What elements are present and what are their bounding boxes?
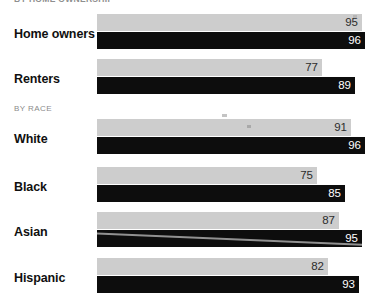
bar-value-light-black: 75 (300, 170, 313, 182)
bar-value-light-hispanic: 82 (311, 261, 324, 273)
chart-row-hispanic: Hispanic 82 93 (0, 258, 385, 303)
bar-value-dark-black: 85 (328, 188, 341, 200)
bar-dark-black: 85 (97, 185, 345, 202)
section-caption-race: BY RACE (14, 104, 52, 113)
bar-value-light-renters: 77 (305, 62, 318, 74)
bar-value-dark-renters: 89 (338, 80, 351, 92)
bar-chart: BY HOME OWNERSHIP Home owners 95 96 Rent… (0, 0, 385, 308)
bar-light-white: 91 (97, 119, 351, 136)
row-label-white: White (14, 132, 48, 146)
bar-light-home-owners: 95 (97, 14, 362, 31)
bar-value-dark-asian: 95 (345, 233, 358, 245)
bar-dark-asian: 95 (97, 230, 362, 247)
bar-dark-home-owners: 96 (97, 32, 365, 49)
section-caption-home-ownership: BY HOME OWNERSHIP (14, 0, 113, 4)
bar-light-renters: 77 (97, 59, 322, 76)
scan-speck (247, 125, 251, 128)
chart-row-renters: Renters 77 89 (0, 59, 385, 104)
bar-value-dark-hispanic: 93 (342, 279, 355, 291)
scan-crease (97, 232, 362, 246)
bar-light-asian: 87 (97, 212, 339, 229)
chart-row-asian: Asian 87 95 (0, 212, 385, 257)
chart-row-home-owners: Home owners 95 96 (0, 14, 385, 59)
bar-dark-white: 96 (97, 137, 365, 154)
chart-row-black: Black 75 85 (0, 167, 385, 212)
bar-value-light-home-owners: 95 (345, 17, 358, 29)
row-label-home-owners: Home owners (14, 27, 95, 41)
bar-value-light-asian: 87 (322, 215, 335, 227)
bar-value-dark-home-owners: 96 (348, 35, 361, 47)
row-label-hispanic: Hispanic (14, 271, 65, 285)
row-label-asian: Asian (14, 225, 48, 239)
bar-dark-hispanic: 93 (97, 276, 359, 293)
bar-dark-renters: 89 (97, 77, 355, 94)
bar-value-dark-white: 96 (348, 140, 361, 152)
row-label-black: Black (14, 180, 47, 194)
row-label-renters: Renters (14, 72, 60, 86)
scan-speck (222, 114, 227, 117)
chart-row-white: White 91 96 (0, 119, 385, 164)
bar-value-light-white: 91 (334, 122, 347, 134)
bar-light-black: 75 (97, 167, 317, 184)
bar-light-hispanic: 82 (97, 258, 328, 275)
